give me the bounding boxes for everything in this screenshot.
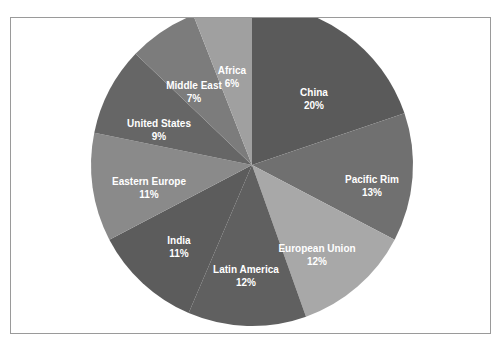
pie-chart: China20% Pacific Rim13% European Union12… (0, 0, 502, 344)
